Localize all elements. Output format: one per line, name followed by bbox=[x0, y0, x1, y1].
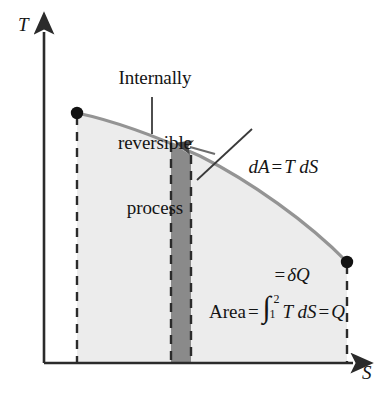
state-2-point bbox=[341, 256, 353, 268]
area-word: Area bbox=[209, 301, 246, 322]
area-result: Q bbox=[331, 301, 345, 322]
x-axis-label: S bbox=[362, 362, 372, 384]
area-integrand: T dS bbox=[283, 301, 317, 322]
area-equals-1: = bbox=[246, 301, 261, 322]
integral-symbol: ∫21 bbox=[261, 301, 283, 320]
dA-symbol: dA bbox=[249, 156, 270, 177]
ts-diagram-figure: T S Internally reversible process dA=T d… bbox=[0, 0, 388, 393]
state-1-point bbox=[71, 107, 83, 119]
process-annotation-line-1: Internally bbox=[92, 67, 218, 89]
area-equals-2: = bbox=[317, 301, 332, 322]
differential-area-line-1: dA=T dS bbox=[220, 134, 318, 199]
process-annotation: Internally reversible process bbox=[92, 24, 218, 262]
integral-lower-limit: 1 bbox=[270, 308, 276, 322]
area-equation-annotation: Area=∫21T dS=Q bbox=[191, 279, 345, 344]
dA-equals-1: = bbox=[270, 156, 285, 177]
process-annotation-line-3: process bbox=[92, 197, 218, 219]
y-axis-label: T bbox=[18, 14, 29, 36]
integral-upper-limit: 2 bbox=[274, 293, 280, 307]
dA-value-1: T dS bbox=[284, 156, 318, 177]
process-annotation-line-2: reversible bbox=[92, 132, 218, 154]
